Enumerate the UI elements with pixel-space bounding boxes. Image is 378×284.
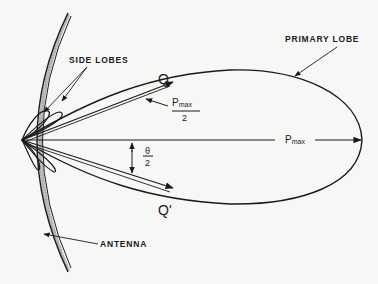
half-pmax-label: Pmax 2: [172, 97, 200, 123]
q-prime-label: Q': [158, 202, 172, 218]
q-label: Q: [158, 71, 169, 87]
pmax-label: Pmax: [285, 134, 305, 145]
radiation-pattern-diagram: Pmax Q Q' Pmax 2 θ 2 SIDE LOBES PRIMARY …: [0, 0, 378, 284]
half-pmax-arrow: [146, 99, 168, 106]
svg-text:2: 2: [182, 113, 187, 123]
svg-text:Pmax: Pmax: [172, 97, 192, 108]
antenna-label: ANTENNA: [100, 239, 147, 249]
primary-lobe: [22, 70, 362, 204]
svg-text:θ: θ: [145, 146, 150, 156]
theta-half-label: θ 2: [143, 146, 153, 168]
primary-lobe-label: PRIMARY LOBE: [285, 34, 359, 44]
antenna-reflector: [37, 13, 71, 272]
side-lobe-pointer-2: [62, 67, 87, 101]
svg-text:2: 2: [145, 158, 150, 168]
side-lobes-label: SIDE LOBES: [69, 55, 128, 65]
antenna-pointer: [44, 234, 98, 244]
